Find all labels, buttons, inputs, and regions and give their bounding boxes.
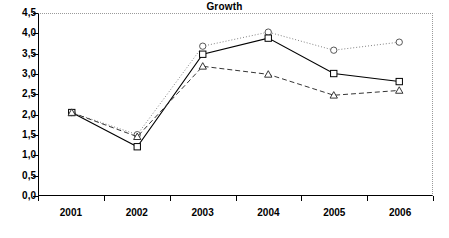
data-point-square-2003 — [200, 51, 206, 57]
x-tick-label: 2004 — [238, 208, 298, 218]
y-tick-label: 1,0 — [4, 150, 36, 160]
x-tick-mark — [367, 196, 368, 201]
x-tick-mark — [236, 196, 237, 201]
x-tick-mark — [38, 196, 39, 201]
x-tick-label: 2006 — [370, 208, 430, 218]
y-tick-label: 0,0 — [4, 191, 36, 201]
data-point-circle-2003 — [200, 43, 206, 49]
data-point-circle-2004 — [265, 29, 271, 35]
x-tick-label: 2002 — [107, 208, 167, 218]
data-point-triangle-2004 — [265, 71, 272, 77]
x-tick-mark — [433, 196, 434, 201]
plot-area — [38, 13, 433, 196]
data-point-triangle-2003 — [199, 63, 206, 69]
x-tick-label: 2001 — [41, 208, 101, 218]
x-tick-label: 2005 — [304, 208, 364, 218]
chart-title: Growth — [0, 1, 449, 13]
growth-line-chart: Growth 0,00,51,01,52,02,53,03,54,04,5 20… — [0, 0, 449, 238]
y-tick-label: 4,0 — [4, 28, 36, 38]
y-tick-label: 1,5 — [4, 130, 36, 140]
y-tick-label: 3,5 — [4, 49, 36, 59]
data-point-triangle-2006 — [396, 87, 403, 93]
series-line-triangle — [72, 66, 399, 136]
x-tick-mark — [170, 196, 171, 201]
data-point-square-2006 — [396, 78, 402, 84]
y-tick-mark — [33, 196, 38, 197]
y-tick-label: 2,5 — [4, 89, 36, 99]
x-tick-label: 2003 — [173, 208, 233, 218]
series-line-circle — [72, 32, 399, 135]
x-tick-mark — [301, 196, 302, 201]
data-point-square-2004 — [265, 35, 271, 41]
y-tick-label: 0,5 — [4, 171, 36, 181]
data-point-circle-2006 — [396, 39, 402, 45]
data-point-circle-2005 — [331, 47, 337, 53]
series-lines-layer — [39, 14, 432, 195]
x-tick-mark — [104, 196, 105, 201]
data-point-square-2005 — [331, 70, 337, 76]
y-tick-label: 3,0 — [4, 69, 36, 79]
data-point-square-2002 — [134, 144, 140, 150]
y-tick-label: 2,0 — [4, 110, 36, 120]
